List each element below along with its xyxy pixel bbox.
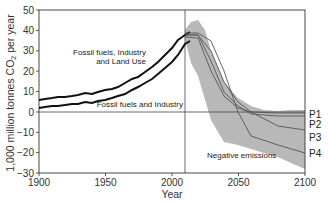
x-axis-label: Year [161,188,183,200]
x-tick: 1950 [94,177,117,188]
uncertainty-band [185,20,305,169]
x-tick: 2000 [161,177,184,188]
emissions-chart: 50 40 30 20 10 0 −10 −20 −30 1900 1950 2… [0,0,328,203]
x-tick: 2050 [227,177,250,188]
y-axis-label: 1,000 million tonnes CO2 per year [4,14,17,172]
annotation-fossil-industry: Fossil fuels and Industry [97,100,183,109]
y-tick: 20 [23,66,35,77]
annotation-fossil-land-use-2: and Land Use [96,57,146,66]
x-tick: 2100 [294,177,317,188]
y-tick: −20 [17,147,34,158]
annotation-fossil-land-use: Fossil fuels, Industry [73,48,146,57]
x-tick: 1900 [28,177,51,188]
annotation-negative-emissions: Negative emissions [207,151,276,160]
label-p3: P3 [309,132,322,143]
label-p4: P4 [309,148,322,159]
y-tick: 10 [23,86,35,97]
y-tick: −10 [17,127,34,138]
label-p2: P2 [309,119,322,130]
y-tick: 40 [23,25,35,36]
y-tick: 50 [23,5,35,16]
y-tick: 0 [28,107,34,118]
y-tick: 30 [23,45,35,56]
